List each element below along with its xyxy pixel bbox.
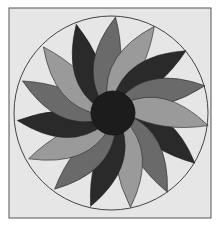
- pinwheel-diagram: [0, 0, 221, 232]
- center-hub: [91, 91, 135, 135]
